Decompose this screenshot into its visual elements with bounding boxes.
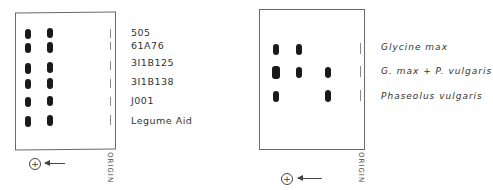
band <box>25 116 31 127</box>
band <box>25 43 31 53</box>
band <box>47 96 53 106</box>
band <box>296 67 302 78</box>
band <box>47 42 53 53</box>
band <box>47 115 53 126</box>
origin-tick <box>110 97 111 106</box>
strain-label: J001 <box>131 95 154 106</box>
band <box>273 91 279 102</box>
band <box>25 29 31 39</box>
origin-label: ORIGIN <box>106 152 114 183</box>
species-label: Phaseolus vulgaris <box>381 91 483 101</box>
species-label: G. max + P. vulgaris <box>381 66 492 76</box>
migration-arrow-icon <box>298 178 322 179</box>
origin-tick <box>110 29 111 38</box>
right-gel-panel <box>259 9 365 150</box>
band <box>25 79 31 89</box>
band <box>296 44 302 55</box>
band <box>47 78 53 89</box>
band <box>25 97 31 107</box>
strain-label: 61A76 <box>131 40 164 51</box>
strain-label: 3I1B138 <box>131 76 174 87</box>
band <box>47 28 53 38</box>
origin-tick <box>360 66 361 77</box>
band <box>47 62 53 73</box>
band <box>272 66 280 79</box>
origin-tick <box>110 61 111 70</box>
origin-tick <box>110 115 111 125</box>
anode-plus-icon: + <box>29 158 41 170</box>
band <box>325 67 331 78</box>
species-label: Glycine max <box>381 42 448 52</box>
band <box>25 63 31 74</box>
origin-tick <box>360 90 361 101</box>
origin-label: ORIGIN <box>357 152 365 183</box>
band <box>325 90 331 102</box>
origin-tick <box>360 43 361 54</box>
strain-label: 505 <box>131 27 151 38</box>
anode-plus-icon: + <box>281 173 293 185</box>
migration-arrow-icon <box>45 163 65 164</box>
strain-label: 3I1B125 <box>131 57 174 68</box>
origin-tick <box>110 42 111 50</box>
strain-label: Legume Aid <box>131 115 192 126</box>
origin-tick <box>110 79 111 88</box>
band <box>273 44 279 55</box>
